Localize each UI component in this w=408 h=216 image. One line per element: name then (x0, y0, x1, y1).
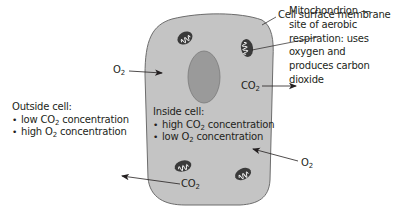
inside-heading: Inside cell: (153, 106, 274, 119)
mito-label-line: produces carbon (289, 59, 408, 73)
outside-cell-list: Outside cell: low CO2 concentration high… (12, 101, 129, 139)
mito-label-line: oxygen and (289, 45, 408, 59)
mito-label-line: respiration: uses (289, 32, 408, 46)
outside-heading: Outside cell: (12, 101, 129, 114)
mitochondrion-label: Mitochondrion — site of aerobic respirat… (289, 4, 408, 87)
mito-label-line: dioxide (289, 73, 408, 87)
mito-label-line: Mitochondrion — (289, 4, 408, 18)
nucleus (188, 51, 220, 103)
inside-cell-list: Inside cell: high CO2 concentration low … (153, 106, 274, 144)
co2-out-label-right: CO2 (241, 80, 260, 92)
inside-item: high CO2 concentration (153, 119, 274, 132)
outside-item: high O2 concentration (12, 126, 129, 139)
co2-out-label-bottom: CO2 (181, 178, 200, 190)
inside-item: low O2 concentration (153, 131, 274, 144)
o2-in-label-top: O2 (113, 64, 125, 76)
mito-label-line: site of aerobic (289, 18, 408, 32)
outside-item: low CO2 concentration (12, 114, 129, 127)
o2-in-label-bottom: O2 (301, 157, 313, 169)
